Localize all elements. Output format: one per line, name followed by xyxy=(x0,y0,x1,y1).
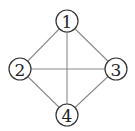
node-label: 4 xyxy=(62,106,73,126)
graph-diagram: 1 2 3 4 xyxy=(0,0,135,131)
node-label: 1 xyxy=(62,12,73,32)
node-2: 2 xyxy=(9,58,31,80)
edges-group xyxy=(20,21,116,115)
graph-svg: 1 2 3 4 xyxy=(0,0,135,131)
nodes-group: 1 2 3 4 xyxy=(9,10,127,126)
node-label: 2 xyxy=(15,60,26,80)
node-3: 3 xyxy=(105,58,127,80)
node-1: 1 xyxy=(56,10,78,32)
node-label: 3 xyxy=(111,60,122,80)
node-4: 4 xyxy=(56,104,78,126)
